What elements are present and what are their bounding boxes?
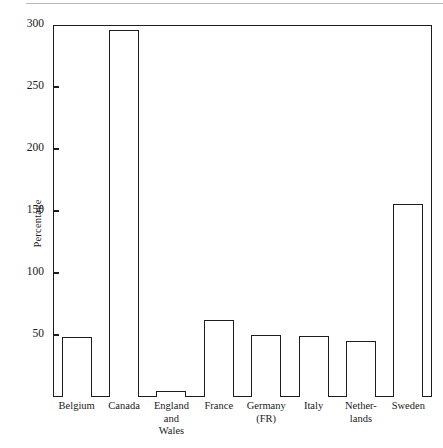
y-axis-title: Percentage xyxy=(32,179,43,269)
y-tick-label: 300 xyxy=(27,17,44,29)
bar-sweden xyxy=(393,204,423,397)
bar-nether--lands xyxy=(346,341,376,397)
bar-canada xyxy=(109,30,139,397)
bar-germany-(fr) xyxy=(251,335,281,397)
bars-layer xyxy=(53,25,432,397)
x-axis-labels: BelgiumCanadaEngland and WalesFranceGerm… xyxy=(53,400,432,448)
y-tick-label: 200 xyxy=(27,141,44,153)
page-top-rule xyxy=(26,3,443,4)
y-tick-label: 250 xyxy=(27,79,44,91)
bar-england-and-wales xyxy=(156,391,186,397)
y-tick-label: 100 xyxy=(27,265,44,277)
y-tick-label: 50 xyxy=(33,327,45,339)
x-axis-label: Sweden xyxy=(381,400,436,413)
bar-chart-figure: Percentage 50100150200250300 BelgiumCana… xyxy=(0,0,443,448)
y-tick-label: 150 xyxy=(27,203,44,215)
bar-italy xyxy=(299,336,329,397)
bar-belgium xyxy=(62,337,92,397)
bar-france xyxy=(204,320,234,397)
